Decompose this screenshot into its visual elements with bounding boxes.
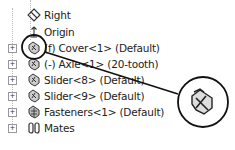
- callout-small-circle: [22, 35, 46, 59]
- callout-leader-line: [45, 52, 178, 94]
- callout-overlay: [0, 0, 235, 150]
